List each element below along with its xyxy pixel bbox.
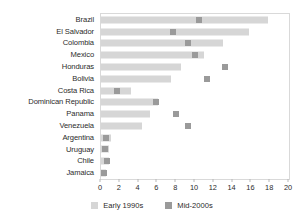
x-axis-tick bbox=[118, 179, 119, 182]
marker-mid-2000s bbox=[153, 99, 159, 105]
plot-area bbox=[100, 13, 290, 180]
category-label: Bolivia bbox=[72, 73, 94, 82]
x-axis-tick bbox=[212, 179, 213, 182]
x-axis-tick bbox=[231, 179, 232, 182]
marker-mid-2000s bbox=[104, 158, 110, 164]
x-axis-tick-label: 6 bbox=[154, 183, 158, 192]
category-label: Dominican Republic bbox=[28, 97, 94, 106]
chart-legend: Early 1990s Mid-2000s bbox=[0, 201, 304, 210]
bar-row bbox=[101, 132, 289, 144]
bar-early-1990s bbox=[101, 111, 150, 118]
bar-row bbox=[101, 14, 289, 26]
bar-row bbox=[101, 96, 289, 108]
category-label: Panama bbox=[66, 109, 94, 118]
marker-mid-2000s bbox=[114, 88, 120, 94]
marker-mid-2000s bbox=[222, 64, 228, 70]
legend-item-mid-2000s: Mid-2000s bbox=[165, 201, 212, 210]
x-axis-tick-label: 20 bbox=[284, 183, 292, 192]
legend-label-mid-2000s: Mid-2000s bbox=[177, 201, 212, 210]
x-axis-tick-label: 10 bbox=[190, 183, 198, 192]
marker-mid-2000s bbox=[170, 29, 176, 35]
x-axis-tick bbox=[288, 179, 289, 182]
bar-row bbox=[101, 120, 289, 132]
category-label: Uruguay bbox=[66, 144, 94, 153]
bar-early-1990s bbox=[101, 40, 223, 47]
marker-mid-2000s bbox=[103, 135, 109, 141]
bar-row bbox=[101, 167, 289, 179]
x-axis-tick bbox=[250, 179, 251, 182]
x-axis-tick bbox=[194, 179, 195, 182]
category-label: Jamaica bbox=[66, 168, 94, 177]
marker-mid-2000s bbox=[101, 170, 107, 176]
category-label: Venezuela bbox=[59, 120, 94, 129]
category-label: Mexico bbox=[71, 50, 94, 59]
x-axis-tick bbox=[137, 179, 138, 182]
x-axis-tick-label: 18 bbox=[265, 183, 273, 192]
bar-row bbox=[101, 144, 289, 156]
bar-row bbox=[101, 49, 289, 61]
bar-early-1990s bbox=[101, 64, 181, 71]
legend-label-early-1990s: Early 1990s bbox=[103, 201, 143, 210]
x-axis: 02468101214161820 bbox=[100, 179, 288, 193]
bar-row bbox=[101, 61, 289, 73]
bar-row bbox=[101, 38, 289, 50]
x-axis-tick bbox=[269, 179, 270, 182]
category-label: Chile bbox=[77, 156, 94, 165]
bar-early-1990s bbox=[101, 99, 158, 106]
x-axis-tick-label: 2 bbox=[117, 183, 121, 192]
x-axis-tick-label: 12 bbox=[209, 183, 217, 192]
legend-swatch-icon-mid-2000s bbox=[165, 202, 172, 209]
bar-early-1990s bbox=[101, 122, 142, 129]
category-label: Brazil bbox=[76, 14, 94, 23]
category-label: Honduras bbox=[62, 62, 94, 71]
bar-row bbox=[101, 155, 289, 167]
category-label: Colombia bbox=[63, 38, 94, 47]
marker-mid-2000s bbox=[102, 146, 108, 152]
x-axis-tick bbox=[156, 179, 157, 182]
category-axis-labels: BrazilEl SalvadorColombiaMexicoHondurasB… bbox=[0, 13, 97, 178]
x-axis-tick-label: 4 bbox=[136, 183, 140, 192]
bar-early-1990s bbox=[101, 52, 204, 59]
bar-row bbox=[101, 108, 289, 120]
bar-rows bbox=[101, 14, 289, 179]
x-axis-tick-label: 14 bbox=[227, 183, 235, 192]
bar-row bbox=[101, 26, 289, 38]
x-axis-tick bbox=[175, 179, 176, 182]
x-axis-tick-label: 16 bbox=[246, 183, 254, 192]
x-axis-tick-label: 8 bbox=[173, 183, 177, 192]
marker-mid-2000s bbox=[204, 76, 210, 82]
marker-mid-2000s bbox=[196, 17, 202, 23]
chart-container: BrazilEl SalvadorColombiaMexicoHondurasB… bbox=[0, 0, 304, 221]
marker-mid-2000s bbox=[185, 40, 191, 46]
marker-mid-2000s bbox=[185, 123, 191, 129]
legend-swatch-icon-early-1990s bbox=[91, 202, 98, 209]
category-label: El Salvador bbox=[56, 26, 94, 35]
bar-early-1990s bbox=[101, 16, 268, 23]
bar-row bbox=[101, 73, 289, 85]
category-label: Costa Rica bbox=[58, 85, 94, 94]
bar-early-1990s bbox=[101, 75, 171, 82]
marker-mid-2000s bbox=[192, 52, 198, 58]
marker-mid-2000s bbox=[173, 111, 179, 117]
category-label: Argentina bbox=[62, 132, 94, 141]
legend-item-early-1990s: Early 1990s bbox=[91, 201, 143, 210]
x-axis-tick-label: 0 bbox=[98, 183, 102, 192]
x-axis-tick bbox=[100, 179, 101, 182]
bar-row bbox=[101, 85, 289, 97]
